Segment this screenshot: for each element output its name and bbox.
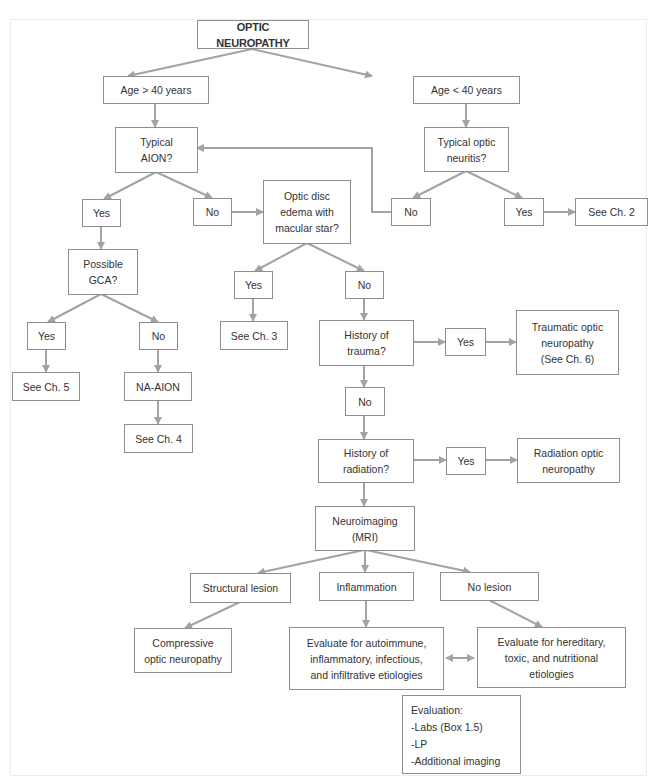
node-age-over-40: Age > 40 years	[103, 76, 209, 104]
node-neuritis-yes: Yes	[504, 198, 544, 226]
node-radiation-optic-neuropathy: Radiation optic neuropathy	[517, 438, 620, 483]
node-radiation-yes: Yes	[446, 447, 486, 475]
node-possible-gca: Possible GCA?	[68, 249, 138, 295]
node-typical-optic-neuritis: Typical optic neuritis?	[424, 127, 509, 172]
node-see-ch3: See Ch. 3	[220, 321, 288, 350]
node-history-radiation: History of radiation?	[318, 439, 414, 483]
node-age-under-40: Age < 40 years	[413, 76, 520, 104]
node-edema-no: No	[345, 271, 384, 299]
node-gca-no: No	[139, 322, 178, 350]
node-inflammation: Inflammation	[319, 572, 414, 601]
node-traumatic-optic-neuropathy: Traumatic optic neuropathy (See Ch. 6)	[516, 310, 619, 375]
node-trauma-yes: Yes	[445, 328, 486, 356]
node-see-ch2: See Ch. 2	[575, 198, 648, 226]
node-neuritis-no: No	[391, 198, 431, 226]
node-see-ch5: See Ch. 5	[12, 372, 80, 401]
node-no-lesion: No lesion	[440, 572, 539, 601]
node-neuroimaging: Neuroimaging (MRI)	[315, 506, 415, 551]
node-aion-no: No	[193, 198, 232, 226]
node-edema-yes: Yes	[234, 271, 273, 299]
node-structural-lesion: Structural lesion	[190, 573, 291, 603]
node-typical-aion: Typical AION?	[115, 127, 198, 173]
node-optic-disc-edema: Optic disc edema with macular star?	[263, 180, 351, 244]
node-gca-yes: Yes	[27, 322, 66, 350]
node-history-trauma: History of trauma?	[319, 320, 414, 366]
node-aion-yes: Yes	[82, 199, 121, 227]
node-evaluate-autoimmune: Evaluate for autoimmune, inflammatory, i…	[289, 627, 444, 690]
node-compressive-optic-neuropathy: Compressive optic neuropathy	[134, 628, 232, 673]
node-evaluate-hereditary: Evaluate for hereditary, toxic, and nutr…	[477, 627, 626, 688]
node-na-aion: NA-AION	[124, 372, 192, 401]
node-optic-neuropathy: OPTIC NEUROPATHY	[197, 20, 309, 49]
node-evaluation-list: Evaluation: -Labs (Box 1.5) -LP -Additio…	[402, 695, 521, 774]
node-see-ch4: See Ch. 4	[124, 424, 193, 453]
node-trauma-no: No	[345, 387, 385, 416]
